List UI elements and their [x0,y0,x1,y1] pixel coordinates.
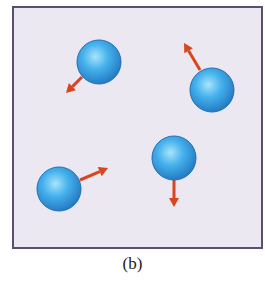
particle-sphere [77,40,121,84]
figure-caption: (b) [0,254,265,274]
particle-sphere [190,68,234,112]
container-box [13,7,262,248]
particle-sphere [37,167,81,211]
particle-sphere [152,136,196,180]
gas-particles-diagram [0,0,265,281]
